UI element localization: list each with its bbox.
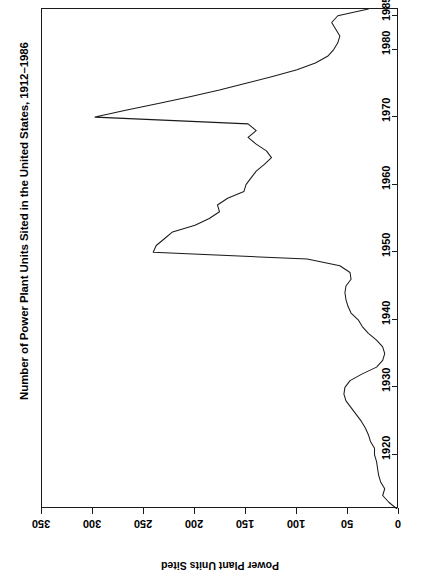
year-tick-label: 1930 xyxy=(380,348,392,392)
year-tick xyxy=(392,386,398,387)
plot-area xyxy=(41,8,398,508)
year-tick xyxy=(392,15,398,16)
value-tick xyxy=(194,508,195,514)
value-tick-label: 150 xyxy=(225,518,265,530)
year-tick xyxy=(392,251,398,252)
value-tick-label: 50 xyxy=(327,518,367,530)
value-tick xyxy=(41,508,42,514)
value-tick-label: 350 xyxy=(21,518,61,530)
value-tick-label: 100 xyxy=(276,518,316,530)
year-tick xyxy=(392,116,398,117)
year-tick-label: 1960 xyxy=(380,146,392,190)
year-tick-label: 1950 xyxy=(380,213,392,257)
chart-title: Number of Power Plant Units Sited in the… xyxy=(18,31,30,411)
value-tick xyxy=(143,508,144,514)
value-tick xyxy=(398,508,399,514)
value-tick-label: 0 xyxy=(378,518,418,530)
value-tick-label: 200 xyxy=(174,518,214,530)
value-tick-label: 300 xyxy=(72,518,112,530)
year-tick-label: 1970 xyxy=(380,78,392,122)
year-tick xyxy=(392,319,398,320)
value-axis-title: Power Plant Units Sited xyxy=(110,560,330,572)
data-line-series xyxy=(42,9,399,509)
value-tick-label: 250 xyxy=(123,518,163,530)
year-tick-label: 1920 xyxy=(380,416,392,460)
year-tick xyxy=(392,49,398,50)
power-plant-units-line xyxy=(95,9,397,509)
value-tick xyxy=(92,508,93,514)
year-tick-label: 1985 xyxy=(380,0,392,21)
year-tick-label: 1940 xyxy=(380,281,392,325)
value-tick xyxy=(347,508,348,514)
year-tick xyxy=(392,454,398,455)
value-tick xyxy=(296,508,297,514)
value-tick xyxy=(245,508,246,514)
year-tick xyxy=(392,184,398,185)
chart-figure: Number of Power Plant Units Sited in the… xyxy=(0,0,423,588)
